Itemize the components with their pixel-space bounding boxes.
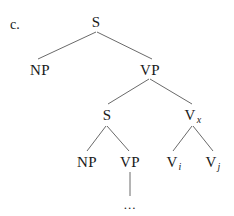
edge-vp-s — [108, 79, 149, 104]
node-vp-embedded: VP — [120, 155, 140, 170]
node-np-subject: NP — [30, 63, 50, 78]
edge-vx-vj — [193, 126, 213, 151]
edge-s-np — [38, 32, 96, 59]
node-vi: Vi — [166, 155, 181, 171]
node-s-root: S — [92, 15, 101, 30]
node-subscript: i — [179, 161, 182, 172]
node-label: V — [205, 154, 216, 170]
node-label: NP — [30, 62, 50, 78]
node-label: S — [92, 14, 101, 30]
edge-s-np2 — [87, 126, 106, 151]
node-label: S — [103, 107, 112, 123]
example-label: c. — [10, 18, 20, 32]
node-s-embedded: S — [103, 108, 112, 123]
node-vx: Vx — [185, 108, 202, 124]
node-subscript: x — [197, 114, 202, 125]
node-np-embedded: NP — [77, 155, 97, 170]
node-vj: Vj — [205, 155, 220, 171]
node-subscript: j — [218, 161, 221, 172]
ellipsis-node: ... — [124, 198, 137, 211]
node-label: V — [166, 154, 177, 170]
edge-vx-vi — [173, 126, 192, 151]
node-label: VP — [140, 62, 160, 78]
edge-vp-vx — [150, 79, 192, 104]
edge-s-vp — [97, 32, 152, 59]
node-label: NP — [77, 154, 97, 170]
edge-s-vp2 — [107, 126, 129, 151]
node-label: VP — [120, 154, 140, 170]
node-label: V — [185, 107, 196, 123]
node-vp-predicate: VP — [140, 63, 160, 78]
